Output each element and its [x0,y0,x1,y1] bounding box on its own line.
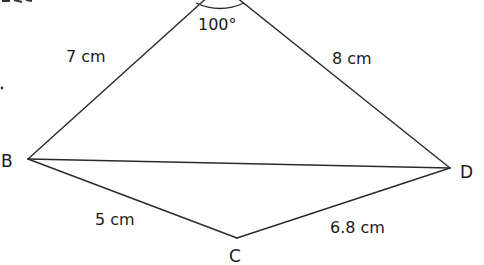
vertex-label-d: D [460,162,473,182]
quadrilateral-diagram: 100° 7 cm 8 cm 5 cm 6.8 cm B C D [0,0,484,265]
side-label-bc: 5 cm [95,210,135,229]
vertex-label-c: C [229,246,241,265]
stray-dot [1,87,4,90]
diagonal-bd [28,159,450,168]
side-label-ad: 8 cm [332,49,372,68]
vertex-label-b: B [1,151,13,171]
angle-label-a: 100° [198,15,237,34]
cropped-heading-fragment [2,0,32,2]
side-label-cd: 6.8 cm [330,218,385,237]
edge-ab [28,0,221,159]
side-label-ab: 7 cm [66,47,106,66]
angle-arc-a [196,3,244,9]
edge-ad [221,0,450,168]
